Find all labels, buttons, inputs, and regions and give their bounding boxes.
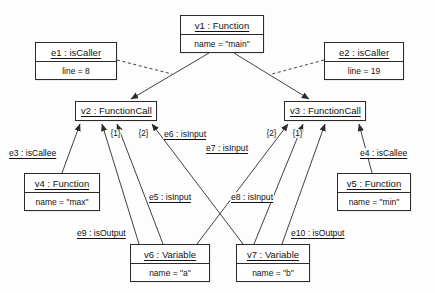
object-node-e2[interactable]: e2 : isCaller line = 19 (324, 42, 404, 80)
connector-e1-link (117, 60, 172, 74)
connector-e5-v6-v2 (117, 124, 163, 244)
connector-e10-v3-v7 (282, 124, 325, 244)
object-node-e2-title: e2 : isCaller (325, 43, 403, 62)
object-node-v2[interactable]: v2 : FunctionCall (75, 101, 157, 121)
connector-e9-v2-v6 (102, 124, 139, 244)
object-node-v4-attribute: name = "max" (25, 193, 99, 211)
connector-e2-link (272, 60, 324, 74)
connector-e8-v7-v3 (254, 124, 303, 244)
object-node-v6[interactable]: v6 : Variable name = "a" (130, 244, 210, 282)
multiplicity-v6-v3: {2} (266, 129, 277, 138)
connector-v1-v3 (234, 53, 309, 99)
edge-label-e10: e10 : isOutput (290, 228, 346, 238)
edge-label-e7: e7 : isInput (205, 143, 249, 153)
edge-label-e4: e4 : isCallee (359, 148, 408, 158)
object-node-v4-title: v4 : Function (25, 174, 99, 193)
edge-label-e5: e5 : isInput (148, 192, 192, 202)
object-node-v3[interactable]: v3 : FunctionCall (284, 101, 366, 121)
object-node-v5-title: v5 : Function (338, 174, 410, 193)
object-node-v6-attribute: name = "a" (131, 264, 209, 282)
multiplicity-v6-v2: {1} (110, 129, 121, 138)
connector-e7-v6-v3 (197, 124, 288, 244)
edge-label-e6: e6 : isInput (163, 129, 207, 139)
object-node-v7-title: v7 : Variable (237, 245, 309, 264)
object-node-e2-attribute: line = 19 (325, 62, 403, 80)
edge-label-e8: e8 : isInput (230, 192, 274, 202)
object-node-v5-attribute: name = "min" (338, 193, 410, 211)
object-node-v6-title: v6 : Variable (131, 245, 209, 264)
multiplicity-v7-v3: {1} (292, 129, 303, 138)
object-node-v1-attribute: name = "main" (181, 35, 263, 53)
object-node-e1[interactable]: e1 : isCaller line = 8 (35, 42, 117, 80)
edge-label-e9: e9 : isOutput (76, 228, 127, 238)
object-node-v2-title: v2 : FunctionCall (76, 102, 156, 120)
edge-label-e3: e3 : isCallee (8, 148, 57, 158)
multiplicity-v7-v2: {2} (138, 129, 149, 138)
object-node-v3-title: v3 : FunctionCall (285, 102, 365, 120)
object-node-e1-title: e1 : isCaller (36, 43, 116, 62)
object-node-e1-attribute: line = 8 (36, 62, 116, 80)
diagram-canvas: v1 : Function name = "main" e1 : isCalle… (0, 0, 435, 293)
object-node-v5[interactable]: v5 : Function name = "min" (337, 173, 411, 211)
connector-e6-v7-v2 (152, 124, 243, 244)
object-node-v7[interactable]: v7 : Variable name = "b" (236, 244, 310, 282)
connector-e3-v4-v2 (62, 124, 80, 173)
object-node-v4[interactable]: v4 : Function name = "max" (24, 173, 100, 211)
object-node-v1-title: v1 : Function (181, 16, 263, 35)
object-node-v1[interactable]: v1 : Function name = "main" (180, 15, 264, 53)
object-node-v7-attribute: name = "b" (237, 264, 309, 282)
connector-v1-v2 (131, 53, 209, 99)
